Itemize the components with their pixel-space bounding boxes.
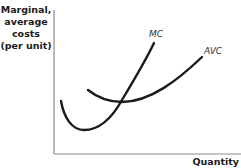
- mc-label: MC: [149, 29, 164, 39]
- avc-label: AVC: [203, 46, 223, 56]
- mc-curve: [61, 43, 154, 130]
- cost-curves-chart: MC AVC: [0, 0, 241, 168]
- avc-curve: [88, 57, 202, 102]
- x-axis-label: Quantity: [192, 156, 239, 167]
